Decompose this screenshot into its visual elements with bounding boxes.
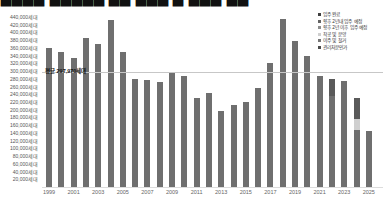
legend-swatch-icon	[318, 39, 321, 42]
x-tick-label: 1999	[37, 189, 61, 196]
average-line	[42, 72, 383, 73]
bar-2003	[95, 44, 101, 187]
bar-segment	[354, 119, 360, 130]
bar-segment	[354, 130, 360, 187]
legend-swatch-icon	[318, 46, 321, 49]
x-tick-label: 2019	[283, 189, 307, 196]
bar-segment	[218, 111, 224, 187]
x-tick-label: 2025	[357, 189, 381, 196]
bar-segment	[280, 19, 286, 187]
bar-segment	[71, 58, 77, 187]
y-tick-label: 200,000세대	[0, 107, 38, 113]
x-tick-label: 2013	[209, 189, 233, 196]
legend-item: 향후 2년내 입주 예정	[318, 19, 383, 24]
y-tick-label: 360,000세대	[0, 45, 38, 51]
legend-swatch-icon	[318, 26, 321, 29]
y-tick-label: 400,000세대	[0, 29, 38, 35]
y-tick-label: 100,000세대	[0, 145, 38, 151]
bar-segment	[304, 56, 310, 187]
legend-item: 착공 및 분양	[318, 32, 383, 37]
bar-segment	[292, 41, 298, 187]
y-tick-label: 300,000세대	[0, 68, 38, 74]
legend-swatch-icon	[318, 20, 321, 23]
legend-item: 이주 및 철거	[318, 38, 383, 43]
bar-2014	[231, 105, 237, 187]
x-tick-label: 2001	[62, 189, 86, 196]
y-tick-label: 380,000세대	[0, 37, 38, 43]
bar-2006	[132, 79, 138, 187]
legend-label: 이주 및 철거	[323, 38, 346, 43]
x-tick-label: 2017	[258, 189, 282, 196]
x-tick-label: 2003	[86, 189, 110, 196]
y-tick-label: 80,000세대	[0, 153, 38, 159]
y-tick-label: 160,000세대	[0, 122, 38, 128]
legend-label: 향후 2년내 입주 예정	[323, 19, 362, 24]
bar-segment	[366, 131, 372, 187]
x-tick-label: 2015	[234, 189, 258, 196]
legend-item: 관리처분인가	[318, 45, 383, 50]
bar-segment	[329, 79, 335, 96]
bar-segment	[157, 82, 163, 187]
y-tick-label: 140,000세대	[0, 130, 38, 136]
x-axis-line	[42, 187, 383, 188]
bar-2010	[181, 76, 187, 187]
bar-2011	[194, 98, 200, 187]
bar-2001	[71, 58, 77, 187]
y-tick-label: 280,000세대	[0, 76, 38, 82]
bar-2015	[243, 102, 249, 187]
bar-segment	[317, 76, 323, 187]
legend-swatch-icon	[318, 13, 321, 16]
bar-segment	[231, 105, 237, 187]
x-tick-label: 2009	[160, 189, 184, 196]
legend-swatch-icon	[318, 33, 321, 36]
bar-segment	[95, 44, 101, 187]
bar-2016	[255, 88, 261, 187]
bar-2004	[108, 20, 114, 187]
x-tick-label: 2021	[308, 189, 332, 196]
legend-item: 향후 2년 이후 입주 예정	[318, 25, 383, 30]
legend-label: 관리처분인가	[323, 45, 347, 50]
bar-2009	[169, 72, 175, 187]
bar-2013	[218, 111, 224, 187]
y-tick-label: 240,000세대	[0, 91, 38, 97]
bar-segment	[144, 80, 150, 187]
clipped-chart-title: ▇▇▇▇ ▇▇▇▇▇ ▇▇ ▇▇▇ ▇ ▇▇▇ ▇▇	[0, 0, 290, 7]
bar-2017	[267, 63, 273, 187]
bar-2022	[329, 79, 335, 187]
bar-2021	[317, 76, 323, 187]
legend-label: 착공 및 분양	[323, 32, 346, 37]
bar-segment	[206, 93, 212, 187]
bar-2023	[341, 81, 347, 187]
bar-2020	[304, 56, 310, 187]
legend-item: 입주 완료	[318, 12, 383, 17]
chart-legend: 입주 완료향후 2년내 입주 예정향후 2년 이후 입주 예정착공 및 분양이주…	[318, 12, 383, 52]
bar-segment	[354, 98, 360, 119]
x-tick-label: 2023	[332, 189, 356, 196]
average-line-label: 평균 297,970세대	[45, 68, 86, 74]
bar-segment	[181, 76, 187, 187]
bar-2019	[292, 41, 298, 187]
y-tick-label: 260,000세대	[0, 84, 38, 90]
bar-segment	[329, 96, 335, 187]
bar-2025	[366, 131, 372, 187]
y-tick-label: 320,000세대	[0, 60, 38, 66]
x-tick-label: 2007	[135, 189, 159, 196]
legend-label: 향후 2년 이후 입주 예정	[323, 25, 367, 30]
bar-segment	[169, 72, 175, 187]
y-tick-label: 340,000세대	[0, 53, 38, 59]
bar-segment	[194, 98, 200, 187]
x-tick-label: 2005	[111, 189, 135, 196]
y-tick-label: 60,000세대	[0, 161, 38, 167]
bar-segment	[255, 88, 261, 187]
y-tick-label: 420,000세대	[0, 22, 38, 28]
bar-segment	[341, 81, 347, 187]
x-tick-label: 2011	[185, 189, 209, 196]
bar-2007	[144, 80, 150, 187]
bar-chart: ▇▇▇▇ ▇▇▇▇▇ ▇▇ ▇▇▇ ▇ ▇▇▇ ▇▇ 440,000세대420,…	[0, 0, 383, 205]
y-tick-label: 40,000세대	[0, 169, 38, 175]
y-tick-label: 180,000세대	[0, 114, 38, 120]
bar-2018	[280, 19, 286, 187]
y-tick-label: 120,000세대	[0, 138, 38, 144]
y-tick-label: 220,000세대	[0, 99, 38, 105]
bar-segment	[83, 38, 89, 187]
